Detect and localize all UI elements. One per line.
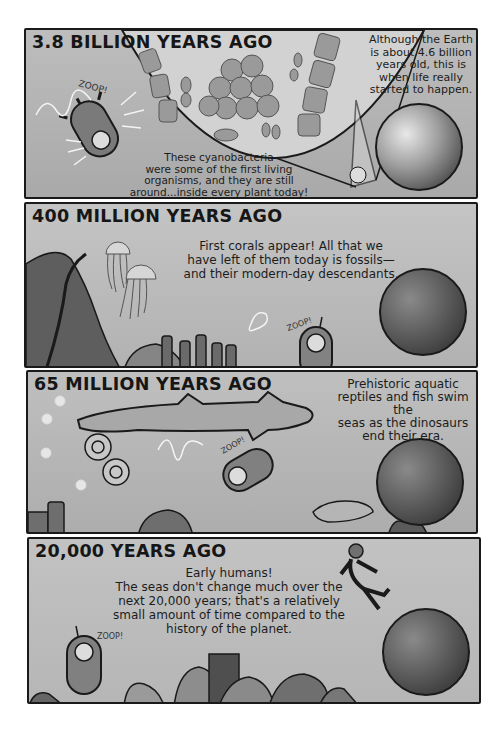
caption-earth-age: Although the Earth is about 4.6 billion …: [366, 34, 476, 97]
panel-20000-years: ZOOP! 20,000 YEARS AGO Early humans! The…: [27, 537, 481, 704]
jellyfish: [106, 242, 156, 319]
submarine: [67, 626, 101, 694]
caption-prehistoric: Prehistoric aquatic reptiles and fish sw…: [328, 378, 478, 443]
panel-title: 65 MILLION YEARS AGO: [34, 374, 272, 394]
panel-3-8-billion-years: ZOOP! 3.8 BILLION YEARS AGO Although the…: [24, 28, 478, 199]
speed-lines: [158, 440, 203, 460]
earth-globe: [380, 269, 466, 355]
earth-globe: [376, 104, 462, 190]
ammonites: [85, 434, 129, 485]
coelacanth: [313, 501, 373, 522]
sfx-zoop: ZOOP!: [77, 78, 108, 95]
earth-globe: [377, 439, 463, 525]
panel-2-illustration: ZOOP!: [26, 204, 478, 368]
crinoid-plant: [26, 253, 121, 368]
panel-title: 20,000 YEARS AGO: [35, 541, 227, 561]
panel-title: 400 MILLION YEARS AGO: [32, 206, 282, 226]
caption-cyanobacteria: These cyanobacteria were some of the fir…: [114, 152, 324, 198]
sfx-zoop: ZOOP!: [220, 435, 247, 456]
speed-lines: [249, 313, 267, 331]
jellyfish: [41, 396, 86, 490]
panel-400-million-years: ZOOP! 400 MILLION YEARS AGO First corals…: [24, 202, 478, 368]
caption-first-corals: First corals appear! All that we have le…: [166, 239, 416, 281]
corals: [124, 335, 236, 368]
panel-65-million-years: ZOOP! 65 MILLION YEARS AGO Prehistoric a…: [26, 370, 478, 534]
shark: [78, 392, 313, 440]
panel-title: 3.8 BILLION YEARS AGO: [32, 32, 273, 52]
caption-early-humans: Early humans! The seas don't change much…: [84, 566, 374, 636]
earth-globe: [383, 609, 469, 695]
